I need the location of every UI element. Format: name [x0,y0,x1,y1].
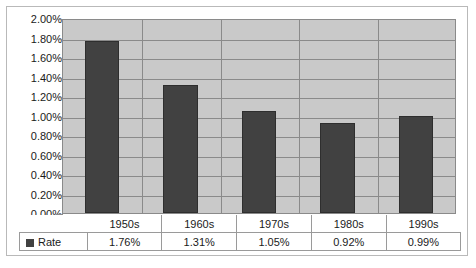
category-header-1950s: 1950s [88,215,162,233]
legend-entry-rate: Rate [20,233,88,251]
value-cell-1970s: 1.05% [237,233,312,251]
bar-1960s[interactable] [163,85,197,213]
table-row-values: Rate1.76%1.31%1.05%0.92%0.99% [20,233,461,251]
value-cell-1950s: 1.76% [88,233,162,251]
y-axis-tick-label: 0.40% [12,170,62,181]
bar-cell [63,20,141,213]
bar-cell [377,20,455,213]
bar-cell [298,20,376,213]
value-cell-1960s: 1.31% [162,233,237,251]
bar-1950s[interactable] [85,41,119,213]
y-axis-tick-label: 1.40% [12,72,62,83]
table-row-categories: 1950s1960s1970s1980s1990s [20,215,461,233]
y-axis-tick-label: 1.00% [12,111,62,122]
bar-1990s[interactable] [399,116,433,213]
bar-cell [220,20,298,213]
y-axis-tick-label: 0.60% [12,150,62,161]
chart-frame: 2.00%1.80%1.60%1.40%1.20%1.00%0.80%0.60%… [6,6,468,256]
category-header-1960s: 1960s [162,215,237,233]
bar-1970s[interactable] [242,111,276,213]
plot-area [62,19,456,214]
bar-cell [141,20,219,213]
table-corner-spacer [20,215,88,233]
category-header-1980s: 1980s [311,215,386,233]
y-axis-tick-label: 2.00% [12,14,62,25]
bar-series-rate [63,20,455,213]
y-axis-tick-label: 0.20% [12,189,62,200]
value-cell-1980s: 0.92% [311,233,386,251]
category-header-1970s: 1970s [237,215,312,233]
category-header-1990s: 1990s [386,215,460,233]
bar-1980s[interactable] [320,123,354,213]
legend-swatch-icon [26,239,34,247]
y-axis-tick-label: 1.80% [12,33,62,44]
legend-label: Rate [38,236,61,248]
y-axis-tick-label: 0.80% [12,131,62,142]
y-axis-tick-label: 1.20% [12,92,62,103]
y-axis-tick-label: 1.60% [12,53,62,64]
y-axis: 2.00%1.80%1.60%1.40%1.20%1.00%0.80%0.60%… [7,19,62,214]
value-cell-1990s: 0.99% [386,233,460,251]
data-table: 1950s1960s1970s1980s1990s Rate1.76%1.31%… [19,215,461,251]
